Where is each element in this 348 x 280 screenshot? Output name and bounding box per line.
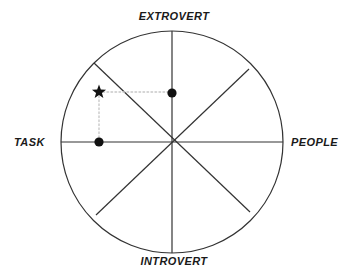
axis-label-people: PEOPLE (291, 137, 338, 148)
behavioral-wheel-diagram: EXTROVERT INTROVERT TASK PEOPLE (0, 0, 348, 280)
dot-marker-extrovert (167, 88, 176, 97)
axis-label-extrovert: EXTROVERT (0, 11, 348, 22)
axis-label-task: TASK (14, 137, 45, 148)
dot-marker-task (94, 137, 103, 146)
axis-label-introvert: INTROVERT (0, 256, 348, 267)
